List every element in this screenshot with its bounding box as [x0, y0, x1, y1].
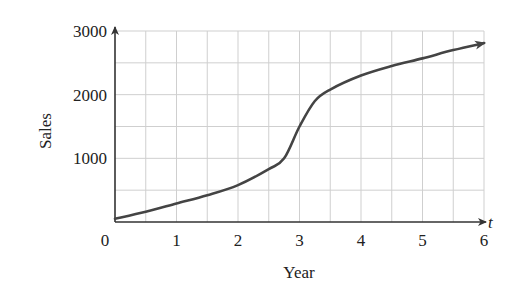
x-tick-label: 6	[480, 231, 489, 250]
y-tick-label: 1000	[73, 149, 107, 168]
x-tick-label: 4	[357, 231, 366, 250]
y-tick-label: 3000	[73, 22, 107, 41]
x-tick-label: 2	[234, 231, 243, 250]
sales-chart: 0123456100020003000 Sales Year t	[0, 0, 514, 297]
x-tick-label: 1	[172, 231, 181, 250]
y-axis-title: Sales	[36, 113, 55, 149]
x-tick-label: 0	[101, 231, 110, 250]
x-axis-variable: t	[488, 213, 494, 232]
x-tick-label: 3	[295, 231, 304, 250]
x-tick-label: 5	[418, 231, 427, 250]
y-tick-label: 2000	[73, 86, 107, 105]
x-axis-title: Year	[283, 263, 315, 282]
